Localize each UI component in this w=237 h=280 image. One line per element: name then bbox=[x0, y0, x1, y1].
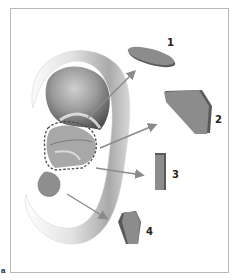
graft-2 bbox=[164, 90, 212, 134]
graft-label-4: 4 bbox=[146, 226, 153, 237]
lower-concha bbox=[47, 125, 96, 168]
graft-3 bbox=[155, 153, 166, 190]
graft-label-1: 1 bbox=[167, 37, 174, 48]
graft-label-2: 2 bbox=[215, 114, 222, 125]
lobule bbox=[38, 172, 60, 197]
graft-4 bbox=[118, 211, 141, 244]
upper-concha bbox=[46, 67, 110, 131]
ear-diagram: 1 2 3 4 bbox=[0, 0, 237, 280]
graft-label-3: 3 bbox=[172, 169, 179, 180]
